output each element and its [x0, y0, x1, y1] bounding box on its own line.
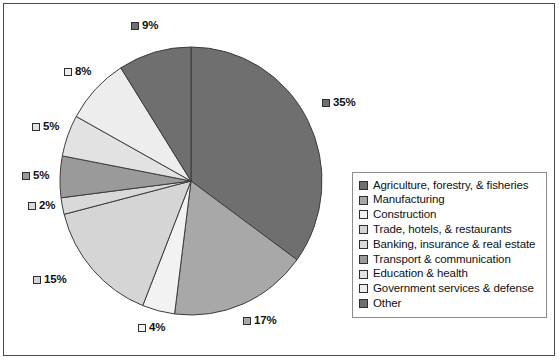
legend-item-label: Manufacturing [373, 194, 445, 206]
legend-color-swatch-icon [359, 210, 368, 219]
slice-data-label: 5% [32, 121, 59, 133]
slice-percent-text: 35% [333, 97, 355, 109]
slice-color-swatch-icon [322, 99, 330, 107]
slice-color-swatch-icon [32, 123, 40, 131]
slice-percent-text: 4% [149, 322, 165, 334]
legend-color-swatch-icon [359, 299, 368, 308]
legend-item: Government services & defense [359, 282, 540, 297]
slice-percent-text: 9% [142, 20, 158, 32]
slice-color-swatch-icon [243, 317, 251, 325]
legend-item-label: Banking, insurance & real estate [373, 239, 535, 251]
chart-legend: Agriculture, forestry, & fisheriesManufa… [352, 172, 547, 318]
legend-item-label: Agriculture, forestry, & fisheries [373, 180, 529, 192]
legend-color-swatch-icon [359, 284, 368, 293]
slice-data-label: 35% [322, 97, 355, 109]
slice-data-label: 2% [28, 200, 55, 212]
legend-item-label: Construction [373, 209, 436, 221]
legend-item: Education & health [359, 267, 540, 282]
legend-item-label: Other [373, 298, 401, 310]
legend-color-swatch-icon [359, 255, 368, 264]
slice-color-swatch-icon [131, 22, 139, 30]
slice-percent-text: 5% [43, 121, 59, 133]
legend-item: Trade, hotels, & restaurants [359, 222, 540, 237]
slice-color-swatch-icon [64, 68, 72, 76]
slice-color-swatch-icon [22, 172, 30, 180]
legend-item: Construction [359, 208, 540, 223]
legend-color-swatch-icon [359, 225, 368, 234]
slice-percent-text: 5% [33, 170, 49, 182]
slice-data-label: 9% [131, 20, 158, 32]
legend-item: Banking, insurance & real estate [359, 237, 540, 252]
pie-chart-figure: 9%35%17%4%15%2%5%5%8% Agriculture, fores… [0, 0, 559, 360]
slice-percent-text: 15% [44, 274, 66, 286]
slice-percent-text: 2% [39, 200, 55, 212]
legend-item: Manufacturing [359, 193, 540, 208]
legend-item-label: Government services & defense [373, 283, 534, 295]
slice-percent-text: 8% [75, 66, 91, 78]
legend-item-label: Education & health [373, 268, 468, 280]
slice-data-label: 5% [22, 170, 49, 182]
slice-data-label: 4% [138, 322, 165, 334]
slice-data-label: 8% [64, 66, 91, 78]
slice-color-swatch-icon [33, 276, 41, 284]
legend-item: Transport & communication [359, 252, 540, 267]
legend-color-swatch-icon [359, 240, 368, 249]
slice-color-swatch-icon [28, 202, 36, 210]
slice-percent-text: 17% [254, 315, 276, 327]
legend-item: Other [359, 296, 540, 311]
legend-color-swatch-icon [359, 270, 368, 279]
legend-item-label: Transport & communication [373, 254, 511, 266]
slice-color-swatch-icon [138, 324, 146, 332]
legend-item: Agriculture, forestry, & fisheries [359, 178, 540, 193]
slice-data-label: 17% [243, 315, 276, 327]
slice-data-label: 15% [33, 274, 66, 286]
pie-slices [60, 47, 322, 315]
legend-item-label: Trade, hotels, & restaurants [373, 224, 512, 236]
legend-color-swatch-icon [359, 196, 368, 205]
legend-color-swatch-icon [359, 181, 368, 190]
